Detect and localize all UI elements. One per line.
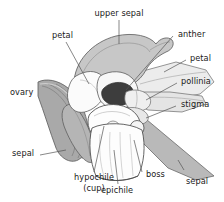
label-anther: anther [178,30,205,40]
label-petal-left: petal [52,31,73,41]
label-upper-sepal: upper sepal [83,9,155,19]
label-ovary: ovary [10,88,33,98]
label-sepal-right: sepal [186,177,208,187]
label-hypochile: hypochile [57,173,131,183]
label-boss: boss [146,170,165,180]
label-petal-right: petal [190,54,211,64]
figure-container: upper sepal petal anther petal pollinia … [0,0,224,202]
label-stigma: stigma [181,100,209,110]
label-epichile: epichile [101,186,133,196]
label-pollinia: pollinia [181,77,211,87]
label-sepal-left: sepal [12,149,34,159]
